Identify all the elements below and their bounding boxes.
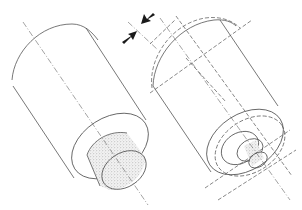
cylinder-diagram [0,0,302,210]
right-cylinder [150,16,296,200]
arrow-down-left-icon [141,13,155,24]
offset-arrows [122,13,158,50]
left-core [87,132,153,197]
arrow-up-right-icon [122,31,137,44]
diagram-canvas [0,0,302,210]
left-cylinder [12,22,160,205]
